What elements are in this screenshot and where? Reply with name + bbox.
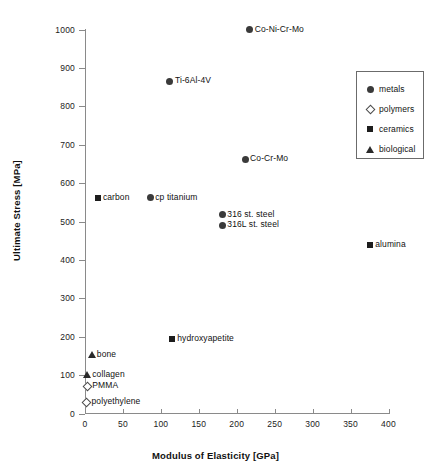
- ceramic-marker-icon: [95, 195, 101, 201]
- y-tick-label: 200: [41, 332, 75, 342]
- data-point-label: 316L st. steel: [227, 219, 279, 229]
- y-tick-label: 700: [41, 140, 75, 150]
- y-tick: [79, 30, 85, 31]
- data-point-label: alumina: [375, 239, 405, 249]
- y-tick-label: 1000: [41, 25, 75, 35]
- x-tick-label: 300: [293, 419, 333, 429]
- chart-legend: metalspolymersceramicsbiological: [356, 71, 424, 159]
- legend-item-metals: metals: [357, 79, 423, 99]
- y-tick-label: 0: [41, 409, 75, 419]
- y-tick: [79, 106, 85, 107]
- filled-triangle-icon: [366, 146, 374, 153]
- data-point-label: bone: [97, 349, 116, 359]
- ceramic-marker-icon: [169, 336, 175, 342]
- biological-marker-icon: [88, 351, 96, 358]
- filled-square-icon: [367, 126, 373, 132]
- polymer-swatch-icon: [366, 105, 374, 113]
- biological-swatch-icon: [366, 145, 374, 153]
- y-tick-label: 800: [41, 101, 75, 111]
- data-point-label: Ti-6Al-4V: [175, 75, 211, 85]
- y-tick-label: 300: [41, 293, 75, 303]
- y-tick-label: 400: [41, 255, 75, 265]
- y-tick: [79, 145, 85, 146]
- x-tick-label: 150: [179, 419, 219, 429]
- metal-marker-icon: [219, 211, 226, 218]
- data-point-label: PMMA: [92, 380, 118, 390]
- y-tick-label: 600: [41, 178, 75, 188]
- polymer-marker-icon: [82, 381, 92, 391]
- data-point-label: polyethylene: [92, 396, 141, 406]
- data-point-label: collagen: [92, 369, 124, 379]
- legend-label: ceramics: [379, 124, 414, 134]
- x-tick-label: 400: [369, 419, 409, 429]
- metal-marker-icon: [219, 222, 226, 229]
- metal-marker-icon: [246, 26, 253, 33]
- data-point-label: Co-Ni-Cr-Mo: [255, 24, 304, 34]
- x-axis-title: Modulus of Elasticity [GPa]: [0, 450, 431, 461]
- x-tick: [351, 409, 352, 414]
- ceramic-marker-icon: [367, 242, 373, 248]
- y-tick-label: 900: [41, 63, 75, 73]
- x-tick-label: 100: [141, 419, 181, 429]
- x-tick-label: 0: [65, 419, 105, 429]
- open-diamond-icon: [366, 105, 376, 115]
- x-tick: [237, 409, 238, 414]
- x-tick: [161, 409, 162, 414]
- x-tick-label: 200: [217, 419, 257, 429]
- data-point-label: hydroxyapetite: [177, 333, 234, 343]
- y-tick: [79, 298, 85, 299]
- metal-marker-icon: [242, 156, 249, 163]
- metal-swatch-icon: [366, 85, 374, 93]
- y-tick-label: 500: [41, 217, 75, 227]
- x-tick: [313, 409, 314, 414]
- x-tick: [199, 409, 200, 414]
- x-tick: [389, 409, 390, 414]
- metal-marker-icon: [147, 194, 154, 201]
- x-tick-label: 50: [103, 419, 143, 429]
- y-tick: [79, 414, 85, 415]
- y-tick-label: 100: [41, 370, 75, 380]
- legend-label: biological: [379, 144, 415, 154]
- y-tick: [79, 260, 85, 261]
- legend-label: metals: [379, 84, 405, 94]
- scatter-chart: 0501001502002503003504000100200300400500…: [0, 0, 431, 471]
- legend-item-polymers: polymers: [357, 99, 423, 119]
- y-tick: [79, 222, 85, 223]
- y-tick: [79, 68, 85, 69]
- filled-circle-icon: [367, 86, 374, 93]
- x-tick: [275, 409, 276, 414]
- y-tick: [79, 337, 85, 338]
- data-point-label: Co-Cr-Mo: [250, 153, 288, 163]
- y-axis-title: Ultimate Stress [MPa]: [11, 116, 22, 306]
- data-point-label: cp titanium: [155, 192, 197, 202]
- y-tick: [79, 183, 85, 184]
- legend-item-biological: biological: [357, 139, 423, 159]
- metal-marker-icon: [166, 78, 173, 85]
- polymer-marker-icon: [82, 397, 92, 407]
- x-tick: [85, 409, 86, 414]
- y-axis-line: [85, 29, 86, 414]
- legend-item-ceramics: ceramics: [357, 119, 423, 139]
- data-point-label: 316 st. steel: [227, 209, 274, 219]
- data-point-label: carbon: [103, 192, 130, 202]
- x-tick-label: 350: [331, 419, 371, 429]
- x-tick-label: 250: [255, 419, 295, 429]
- ceramic-swatch-icon: [366, 125, 374, 133]
- x-tick: [123, 409, 124, 414]
- legend-label: polymers: [379, 104, 414, 114]
- biological-marker-icon: [83, 371, 91, 378]
